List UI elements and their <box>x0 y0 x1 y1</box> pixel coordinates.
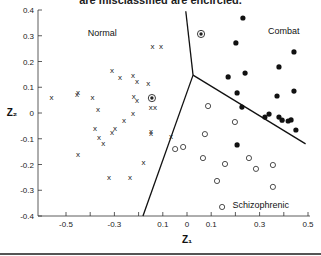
combat-point <box>234 90 239 95</box>
combat-point <box>288 117 293 122</box>
y-tick-label: -0.2 <box>20 161 34 170</box>
x-tick-label: 0.1 <box>157 220 169 229</box>
y-axis-label: Z₂ <box>7 107 18 118</box>
combat-point <box>239 104 244 109</box>
schizophrenic-point <box>246 155 251 160</box>
region-labels: NormalCombatSchizophrenic <box>88 26 300 210</box>
combat-point <box>291 49 296 54</box>
schizophrenic-point <box>214 178 219 183</box>
y-tick-label: 0.2 <box>23 58 35 67</box>
normal-point-x: x <box>122 116 126 125</box>
misclassified-point <box>150 96 153 99</box>
boundary-combat-schizophrenic <box>193 75 306 144</box>
scatter-chart: 0.40.30.20.10-0.1-0.2-0.3-0.4-0.5-0.30.1… <box>0 0 321 256</box>
schizophrenic-point <box>173 146 178 151</box>
combat-point <box>266 111 271 116</box>
bottom-rule-divider <box>0 253 321 255</box>
y-tick-label: 0.1 <box>23 83 35 92</box>
x-tick-label: -0.3 <box>108 220 122 229</box>
schizophrenic-point <box>222 161 227 166</box>
schizophrenic-point <box>202 132 207 137</box>
normal-point-x: x <box>118 73 122 82</box>
misclassified-point <box>199 32 202 35</box>
normal-point-x: x <box>153 103 157 112</box>
schizophrenic-point <box>232 119 237 124</box>
combat-point <box>276 64 281 69</box>
combat-point <box>242 70 247 75</box>
combat-point <box>226 74 231 79</box>
combat-point <box>234 142 239 147</box>
normal-point-x: x <box>128 173 132 182</box>
normal-point-x: x <box>149 129 153 138</box>
schizophrenic-point <box>253 166 258 171</box>
schizophrenic-point <box>270 184 275 189</box>
x-tick-label: 0.5 <box>302 220 314 229</box>
x-tick-label: 0.1 <box>206 220 218 229</box>
y-tick-label: 0.3 <box>23 32 35 41</box>
boundary-normal-combat <box>186 11 193 75</box>
normal-point-x: x <box>131 109 135 118</box>
x-tick-label: 0.3 <box>254 220 266 229</box>
normal-point-x: x <box>76 150 80 159</box>
combat-point <box>293 127 298 132</box>
normal-point-x: x <box>101 139 105 148</box>
normal-point-x: x <box>135 77 139 86</box>
normal-point-x: x <box>135 96 139 105</box>
x-tick-label: -0.5 <box>59 220 73 229</box>
combat-point <box>291 89 296 94</box>
region-label-combat: Combat <box>268 26 300 36</box>
y-tick-label: -0.4 <box>20 212 34 221</box>
normal-point-x: x <box>169 132 173 141</box>
combat-point <box>233 40 238 45</box>
normal-point-x: x <box>141 158 145 167</box>
normal-point-x: x <box>110 66 114 75</box>
y-tick-label: 0.4 <box>23 6 35 15</box>
decision-boundaries <box>143 11 306 216</box>
schizophrenic-point <box>219 204 224 209</box>
x-tick-label: 0 <box>185 220 190 229</box>
normal-point-x: x <box>146 79 150 88</box>
normal-point-x: x <box>96 105 100 114</box>
combat-point <box>280 118 285 123</box>
schizophrenic-point <box>270 162 275 167</box>
normal-point-x: x <box>113 124 117 133</box>
y-tick-label: -0.1 <box>20 135 34 144</box>
schizophrenic-point <box>200 155 205 160</box>
x-axis-label: Z₁ <box>182 234 192 245</box>
schizophrenic-point <box>181 144 186 149</box>
normal-point-x: x <box>49 93 53 102</box>
normal-point-x: x <box>159 42 163 51</box>
data-points: xxxxxxxxxxxxxxxxxxxxxxxxxxxxxx <box>49 15 298 209</box>
combat-point <box>274 93 279 98</box>
normal-point-x: x <box>91 93 95 102</box>
y-tick-label: -0.3 <box>20 186 34 195</box>
normal-point-x: x <box>107 173 111 182</box>
combat-point <box>262 115 267 120</box>
schizophrenic-point <box>205 103 210 108</box>
normal-point-x: x <box>150 42 154 51</box>
region-label-normal: Normal <box>88 28 117 38</box>
normal-point-x: x <box>76 88 80 97</box>
combat-point <box>240 15 245 20</box>
y-tick-label: 0 <box>30 109 35 118</box>
region-label-schizophrenic: Schizophrenic <box>233 200 290 210</box>
